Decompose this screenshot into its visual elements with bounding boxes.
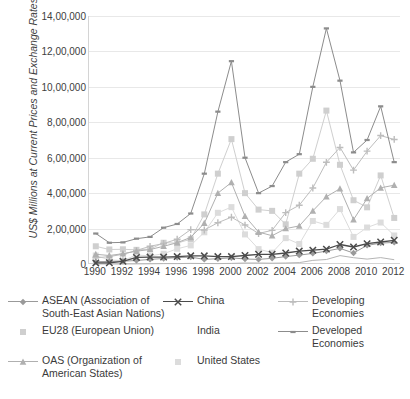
legend-label: OAS (Organization of American States)	[42, 354, 142, 379]
x-tick-label: 1992	[111, 266, 133, 277]
series-layer	[89, 16, 401, 264]
legend-label: Developing Economies	[312, 294, 410, 319]
y-tick-label: 14,00,000	[42, 11, 87, 22]
x-axis-tick-labels: 1990199219941996199820002002200420062008…	[88, 266, 400, 286]
y-tick-label: 8,00,000	[47, 117, 86, 128]
legend-label: United States	[197, 354, 260, 367]
y-axis-tick-labels: 02,00,0004,00,0006,00,0008,00,00010,00,0…	[28, 0, 86, 292]
x-tick-label: 2006	[301, 266, 323, 277]
legend-marker-icon	[278, 296, 308, 308]
x-tick-label: 1998	[192, 266, 214, 277]
y-tick-label: 4,00,000	[47, 188, 86, 199]
x-tick-label: 2002	[246, 266, 268, 277]
legend-item-developed-economies[interactable]: Developed Economies	[278, 324, 410, 349]
x-tick-label: 2008	[328, 266, 350, 277]
legend-label: EU28 (European Union)	[42, 324, 154, 337]
legend-marker-icon	[8, 356, 38, 368]
y-tick-label: 6,00,000	[47, 152, 86, 163]
legend-item-united-states[interactable]: United States	[163, 354, 260, 368]
y-tick-label: 10,00,000	[42, 81, 87, 92]
legend-marker-icon	[278, 326, 308, 338]
series-eu28	[93, 108, 397, 253]
x-tick-label: 2010	[355, 266, 377, 277]
x-tick-label: 1990	[84, 266, 106, 277]
x-tick-label: 2012	[382, 266, 404, 277]
legend-item-developing-economies[interactable]: Developing Economies	[278, 294, 410, 319]
plot-area	[88, 16, 400, 264]
legend-marker-icon	[8, 326, 38, 338]
legend-item-china[interactable]: China	[163, 294, 224, 308]
y-tick-label: 2,00,000	[47, 223, 86, 234]
x-tick-label: 2000	[219, 266, 241, 277]
legend-item-asean[interactable]: ASEAN (Association of South-East Asian N…	[8, 294, 165, 319]
legend-marker-icon	[8, 296, 38, 308]
legend-item-india[interactable]: India	[163, 324, 220, 338]
legend-label: Developed Economies	[312, 324, 410, 349]
legend-label: China	[197, 294, 224, 307]
legend-item-oas[interactable]: OAS (Organization of American States)	[8, 354, 142, 379]
legend-marker-icon	[163, 356, 193, 368]
chart-page: US$ Millions at Current Prices and Excha…	[0, 0, 410, 399]
legend-item-eu28[interactable]: EU28 (European Union)	[8, 324, 154, 338]
legend-label: India	[197, 324, 220, 337]
legend-marker-icon	[163, 326, 193, 338]
x-tick-label: 1994	[138, 266, 160, 277]
x-tick-label: 2004	[274, 266, 296, 277]
y-tick-label: 12,00,000	[42, 46, 87, 57]
series-developed-economies	[93, 27, 397, 244]
legend-marker-icon	[163, 296, 193, 308]
legend-label: ASEAN (Association of South-East Asian N…	[42, 294, 165, 319]
x-tick-label: 1996	[165, 266, 187, 277]
chart-legend: ASEAN (Association of South-East Asian N…	[0, 292, 410, 399]
line-chart: US$ Millions at Current Prices and Excha…	[0, 0, 410, 292]
